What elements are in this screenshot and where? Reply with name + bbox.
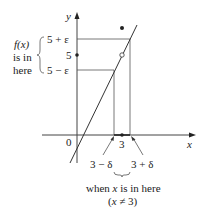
- x-tick-left: 3 − δ: [90, 158, 112, 170]
- y-axis-arrow-icon: [75, 12, 80, 19]
- left-pointer-arrow-icon: [111, 136, 115, 141]
- y-tick-upper: 5 + ε: [47, 33, 69, 45]
- epsilon-delta-diagram: y x 0 5 + ε 5 5 − ε f(x) is in here 3 3 …: [0, 0, 205, 215]
- bottom-brace-icon: [114, 172, 130, 177]
- bottom-annotation-line1: when x is in here: [86, 182, 161, 194]
- bottom-annotation-line2: (x ≠ 3): [108, 195, 138, 208]
- left-annotation-line2: is in: [13, 51, 32, 63]
- x-tick-right: 3 + δ: [131, 158, 153, 170]
- y-tick-lower: 5 − ε: [47, 64, 69, 76]
- function-line: [70, 25, 137, 163]
- y-axis-label: y: [65, 10, 71, 22]
- left-brace-icon: [37, 37, 44, 73]
- right-pointer-arrow-icon: [131, 136, 136, 141]
- filled-point-f3: [120, 26, 124, 30]
- y-tick-center: 5: [66, 49, 72, 61]
- open-point-limit: [120, 53, 124, 57]
- left-annotation-line3: here: [13, 64, 32, 76]
- left-annotation-line1: f(x): [14, 38, 30, 51]
- y-axis: [75, 12, 80, 163]
- right-delta-pointer: [133, 138, 143, 155]
- y-axis-point-5: [75, 53, 79, 57]
- x-axis-arrow-icon: [189, 133, 196, 138]
- left-delta-pointer: [103, 138, 113, 155]
- x-axis-label: x: [186, 138, 192, 150]
- x-tick-center: 3: [119, 138, 125, 150]
- origin-label: 0: [66, 136, 72, 148]
